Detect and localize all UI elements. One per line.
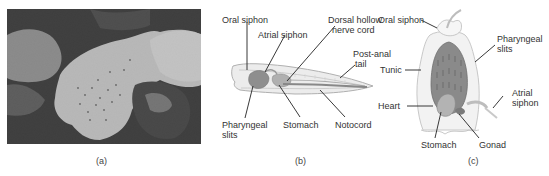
label-atrial-2-c: siphon: [512, 98, 539, 108]
tunicate-photo: [0, 0, 205, 176]
label-stomach-c: Stomach: [421, 140, 457, 150]
label-pharyngeal-2-c: slits: [497, 44, 513, 54]
panel-b: Oral siphon Atrial siphon Dorsal hollow …: [205, 0, 375, 176]
label-heart: Heart: [378, 101, 400, 111]
label-tunic: Tunic: [380, 65, 402, 75]
caption-a: (a): [96, 156, 107, 166]
label-atrial-1-c: Atrial: [512, 88, 533, 98]
panel-a: (a): [0, 0, 205, 176]
caption-c: (c): [468, 156, 479, 166]
panel-c: Oral siphon Pharyngeal slits Tunic Atria…: [375, 0, 549, 176]
label-dorsal-1: Dorsal hollow: [328, 15, 382, 25]
label-oral-siphon-b: Oral siphon: [222, 15, 268, 25]
label-pharyngeal-1-b: Pharyngeal: [222, 120, 268, 130]
label-dorsal-2: nerve cord: [332, 25, 375, 35]
caption-b: (b): [295, 156, 306, 166]
label-atrial-siphon-b: Atrial siphon: [258, 30, 308, 40]
label-notocord: Notocord: [335, 120, 372, 130]
label-tail-2: tail: [355, 59, 367, 69]
label-pharyngeal-1-c: Pharyngeal: [497, 34, 543, 44]
label-oral-siphon-c: Oral siphon: [378, 15, 424, 25]
label-stomach-b: Stomach: [283, 120, 319, 130]
label-pharyngeal-2-b: slits: [222, 130, 238, 140]
label-gonad: Gonad: [479, 140, 506, 150]
